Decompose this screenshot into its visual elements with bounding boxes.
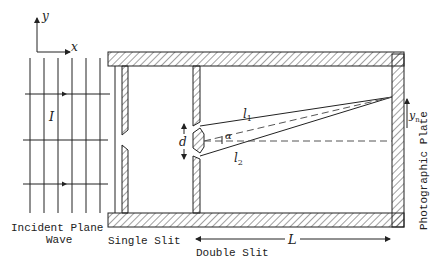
incident-wavefronts (30, 58, 100, 213)
double-slit-label: Double Slit (196, 247, 269, 259)
single-slit-screen (122, 66, 128, 213)
coordinate-axes: y x (37, 9, 78, 54)
path-rays (200, 97, 392, 156)
incident-wave-caption-line2: Wave (46, 234, 72, 246)
incident-wave-caption-line1: Incident Plane (11, 222, 103, 234)
double-slit-diagram: y x I Incident Plane Wave (0, 0, 437, 266)
double-slit-screen (193, 66, 204, 213)
distance-marker: L (196, 232, 390, 247)
distance-label: L (287, 232, 297, 247)
y-axis-label: y (41, 9, 49, 23)
photographic-plate (392, 54, 404, 227)
photographic-plate-label: Photographic Plate (418, 111, 430, 230)
intensity-label: I (48, 109, 55, 124)
angle-alpha-label: α (225, 130, 232, 141)
path-l2-label: l2 (234, 151, 243, 167)
x-axis-label: x (71, 40, 78, 54)
apparatus-enclosure (108, 52, 404, 227)
propagation-rays (23, 92, 110, 187)
slit-separation-marker: d (179, 124, 187, 159)
path-l1-label: l1 (243, 107, 252, 123)
slit-separation-label: d (179, 135, 187, 149)
single-slit-label: Single Slit (108, 235, 181, 247)
angle-alpha-marker: α (222, 130, 232, 144)
